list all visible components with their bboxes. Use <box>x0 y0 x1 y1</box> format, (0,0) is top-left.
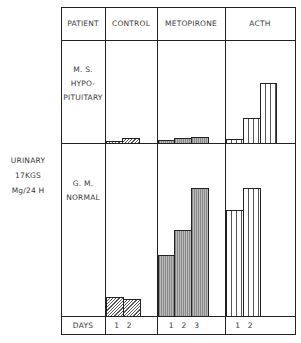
bar-ms-metopirone-1 <box>158 140 175 144</box>
table-bottom-border <box>61 334 295 335</box>
header-metopirone: METOPIRONE <box>157 19 225 28</box>
header-bottom-border <box>61 40 295 41</box>
days-acth: 1 2 <box>229 321 259 330</box>
days-label: DAYS <box>61 321 105 330</box>
table-top-border <box>61 7 295 8</box>
col-border-left <box>61 7 62 335</box>
bar-gm-control-2 <box>123 299 141 317</box>
bar-gm-control-1 <box>106 297 124 317</box>
bar-gm-metopirone-3 <box>191 188 209 317</box>
bar-ms-acth-2 <box>243 118 261 144</box>
col-border-right <box>295 7 296 335</box>
patient-ms-line2: HYPO- <box>61 79 105 88</box>
ylabel-line1: URINARY <box>0 156 56 165</box>
bar-gm-acth-2 <box>243 188 261 317</box>
ylabel-line3: Mg/24 H <box>0 186 56 195</box>
bar-gm-metopirone-2 <box>174 230 192 317</box>
patient-gm-line2: NORMAL <box>61 193 105 202</box>
bar-gm-acth-1 <box>226 210 244 317</box>
bar-ms-metopirone-3 <box>191 137 209 144</box>
bar-gm-metopirone-1 <box>158 255 175 317</box>
ylabel-line2: 17KGS <box>0 171 56 180</box>
header-patient: PATIENT <box>61 19 105 28</box>
header-control: CONTROL <box>105 19 157 28</box>
bar-ms-metopirone-2 <box>174 138 192 144</box>
bar-ms-acth-1 <box>226 139 244 144</box>
bar-ms-control-2 <box>122 138 140 144</box>
header-acth: ACTH <box>225 19 295 28</box>
days-control: 1 2 <box>108 321 138 330</box>
patient-ms-line1: M. S. <box>61 65 105 74</box>
patient-gm-line1: G. M. <box>61 179 105 188</box>
days-metopirone: 1 2 3 <box>162 321 206 330</box>
patient-ms-line3: PITUITARY <box>61 93 105 102</box>
bar-ms-control-1 <box>106 141 123 144</box>
bar-ms-acth-3 <box>260 83 277 144</box>
col-border-patient <box>105 7 106 335</box>
